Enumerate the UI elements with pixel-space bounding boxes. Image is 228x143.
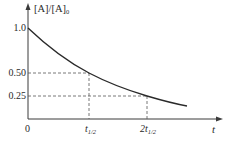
- chart-svg: [0, 0, 228, 143]
- y-tick-1-0: 1.0: [2, 23, 26, 33]
- y-axis-label: [A]/[A]0: [34, 4, 69, 16]
- x-tick-t-half: t1/2: [85, 124, 96, 136]
- y-tick-0-50: 0.50: [2, 68, 26, 78]
- y-tick-0-25: 0.25: [2, 91, 26, 101]
- y-axis-arrow-icon: [26, 3, 31, 10]
- x-tick-two-t-half: 2t1/2: [140, 124, 156, 136]
- x-axis-arrow-icon: [216, 117, 223, 122]
- decay-curve: [28, 28, 187, 106]
- half-life-chart: [A]/[A]0 1.0 0.50 0.25 0 t1/2 2t1/2 t: [0, 0, 228, 143]
- x-tick-zero: 0: [25, 124, 30, 134]
- x-axis-label: t: [212, 124, 215, 135]
